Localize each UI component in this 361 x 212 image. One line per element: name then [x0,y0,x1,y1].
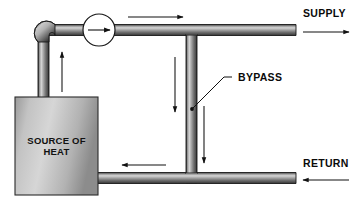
riser-pipe [38,35,49,99]
bypass-pipe [186,34,197,174]
bypass-leader-dot [190,107,194,111]
supply-label: SUPPLY [303,7,346,19]
heat-source-box: SOURCE OF HEAT [15,97,98,195]
bypass-label: BYPASS [238,71,282,83]
heating-system-diagram: SOURCE OF HEAT [0,0,361,212]
heat-source-label-line1: SOURCE OF [27,135,85,146]
bypass-bottom-tee [186,173,197,184]
heat-source-label-line2: HEAT [44,146,70,157]
pipe-elbow [34,21,55,42]
bypass-leader-line [192,77,232,109]
pump-symbol[interactable] [83,14,115,46]
bypass-top-tee [186,25,197,36]
return-label: RETURN [303,157,349,169]
